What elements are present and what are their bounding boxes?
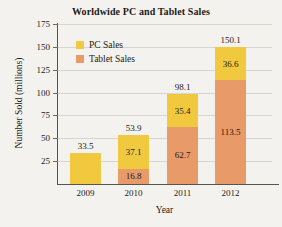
legend-item-pc-sales[interactable]: PC Sales [76,38,156,52]
y-tick-label: 175 [22,20,50,29]
bar-chart: Worldwide PC and Tablet Sales Number Sol… [0,0,282,227]
bar-value-label-tablet-2012: 113.5 [215,128,246,137]
y-tick-label: 125 [22,66,50,75]
x-axis-label: Year [57,205,272,215]
bar-value-label-pc-2012: 36.6 [215,60,246,69]
y-tick-mark [53,70,58,71]
y-tick-mark [53,161,58,162]
legend-label-tablet-sales: Tablet Sales [89,54,135,64]
y-tick-mark [53,47,58,48]
y-tick-label: 150 [22,43,50,52]
x-tick-label-2012: 2012 [209,188,252,198]
x-tick-label-2009: 2009 [64,188,107,198]
bar-value-label-tablet-2011: 62.7 [167,151,198,160]
y-tick-mark [53,138,58,139]
bar-total-label-2012: 150.1 [209,36,252,45]
legend-item-tablet-sales[interactable]: Tablet Sales [76,52,156,66]
y-tick-label: 75 [22,111,50,120]
y-tick-label: 50 [22,134,50,143]
bar-value-label-tablet-2010: 16.8 [118,172,149,181]
chart-title: Worldwide PC and Tablet Sales [0,6,282,17]
bar-value-label-pc-2011: 35.4 [167,107,198,116]
bar-value-label-pc-2010: 37.1 [118,148,149,157]
y-tick-label: 25 [22,157,50,166]
y-axis-tick-labels: 175 150 125 100 75 50 25 [20,24,50,184]
bar-total-label-2010: 53.9 [112,124,155,133]
bar-segment-pc-2009[interactable] [70,153,101,184]
y-tick-label: 100 [22,89,50,98]
gridline [57,24,272,25]
x-tick-label-2011: 2011 [161,188,204,198]
bar-total-label-2009: 33.5 [64,142,107,151]
y-tick-mark [53,24,58,25]
bar-total-label-2011: 98.1 [161,83,204,92]
x-axis-spine [57,184,279,185]
y-tick-mark [53,115,58,116]
tablet-sales-swatch-icon [76,55,84,63]
chart-legend: PC Sales Tablet Sales [76,38,156,66]
x-tick-label-2010: 2010 [112,188,155,198]
pc-sales-swatch-icon [76,41,84,49]
y-tick-mark [53,93,58,94]
legend-label-pc-sales: PC Sales [89,40,123,50]
x-axis-tick-labels: 2009 2010 2011 2012 [57,188,279,202]
